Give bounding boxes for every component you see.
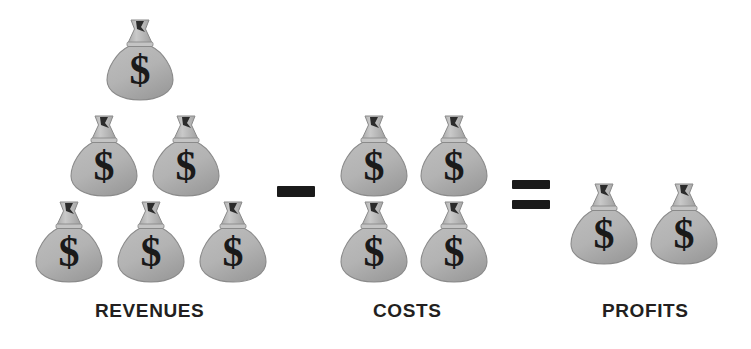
money-bag-icon: $ (115, 198, 187, 286)
group-label-profits: PROFITS (602, 300, 689, 322)
money-bag-icon: $ (33, 198, 105, 286)
money-bag-icon: $ (338, 198, 410, 286)
diagram-canvas: $ $ $ $ $ $ REVENUES $ $ $ $ COSTS $ $ P… (0, 0, 751, 349)
money-bag-icon: $ (150, 112, 222, 200)
svg-text:$: $ (674, 211, 695, 257)
money-bag-icon: $ (104, 16, 176, 104)
svg-text:$: $ (364, 143, 385, 189)
group-label-costs: COSTS (373, 300, 441, 322)
svg-text:$: $ (59, 229, 80, 275)
svg-text:$: $ (223, 229, 244, 275)
svg-text:$: $ (364, 229, 385, 275)
equals-operator (512, 180, 550, 209)
money-bag-icon: $ (648, 180, 720, 268)
group-label-revenues: REVENUES (95, 300, 204, 322)
svg-text:$: $ (444, 229, 465, 275)
money-bag-icon: $ (418, 198, 490, 286)
minus-operator (277, 186, 315, 197)
equals-bar-top (512, 180, 550, 189)
money-bag-icon: $ (568, 180, 640, 268)
svg-text:$: $ (444, 143, 465, 189)
svg-text:$: $ (94, 143, 115, 189)
money-bag-icon: $ (197, 198, 269, 286)
svg-text:$: $ (130, 47, 151, 93)
money-bag-icon: $ (338, 112, 410, 200)
svg-text:$: $ (594, 211, 615, 257)
equals-bar-bottom (512, 200, 550, 209)
minus-bar (277, 186, 315, 197)
svg-text:$: $ (176, 143, 197, 189)
money-bag-icon: $ (418, 112, 490, 200)
svg-text:$: $ (141, 229, 162, 275)
money-bag-icon: $ (68, 112, 140, 200)
